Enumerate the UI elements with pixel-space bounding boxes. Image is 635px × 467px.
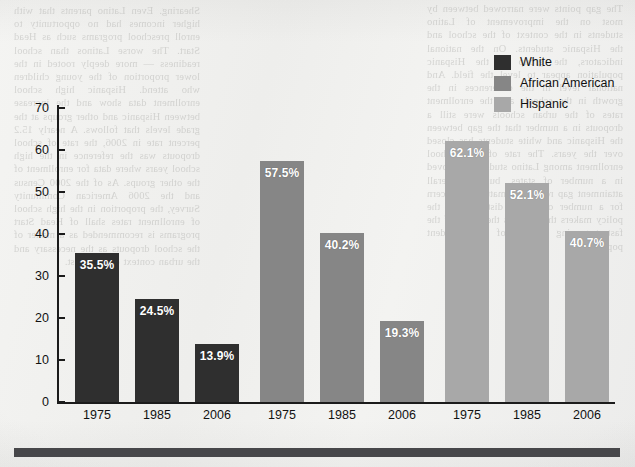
bar-hispanic-1975[interactable]: 62.1% bbox=[445, 141, 489, 402]
bar-value-label: 62.1% bbox=[445, 146, 489, 160]
bars-layer: 35.5%24.5%13.9%57.5%40.2%19.3%62.1%52.1%… bbox=[57, 108, 615, 402]
bar-value-label: 19.3% bbox=[380, 326, 424, 340]
bar-value-label: 40.2% bbox=[320, 238, 364, 252]
bar-african-american-1975[interactable]: 57.5% bbox=[260, 161, 304, 403]
legend-swatch-icon bbox=[494, 55, 511, 70]
x-axis-label-1975: 1975 bbox=[260, 409, 304, 422]
bar-white-1985[interactable]: 24.5% bbox=[135, 299, 179, 402]
bar-hispanic-1985[interactable]: 52.1% bbox=[505, 183, 549, 402]
y-axis-tick-label: 50 bbox=[23, 186, 49, 199]
bar-value-label: 57.5% bbox=[260, 166, 304, 180]
x-axis-line bbox=[57, 402, 615, 404]
x-axis-label-2006: 2006 bbox=[380, 409, 424, 422]
bar-value-label: 13.9% bbox=[195, 349, 239, 363]
x-axis-label-1985: 1985 bbox=[505, 409, 549, 422]
x-axis-label-1985: 1985 bbox=[320, 409, 364, 422]
y-axis-tick-label: 40 bbox=[23, 228, 49, 241]
legend-swatch-icon bbox=[494, 97, 511, 112]
bottom-rule-band bbox=[14, 448, 620, 457]
x-axis-label-2006: 2006 bbox=[565, 409, 609, 422]
bar-african-american-1985[interactable]: 40.2% bbox=[320, 233, 364, 402]
bar-white-1975[interactable]: 35.5% bbox=[75, 253, 119, 402]
x-axis-label-1985: 1985 bbox=[135, 409, 179, 422]
y-axis-tick-label: 60 bbox=[23, 144, 49, 157]
legend-item-african-american[interactable]: African American bbox=[494, 73, 614, 93]
y-axis-tick-label: 10 bbox=[23, 354, 49, 367]
bar-african-american-2006[interactable]: 19.3% bbox=[380, 321, 424, 402]
legend-label: Hispanic bbox=[520, 98, 568, 111]
bar-hispanic-2006[interactable]: 40.7% bbox=[565, 231, 609, 402]
bar-value-label: 24.5% bbox=[135, 304, 179, 318]
y-axis-tick-label: 0 bbox=[23, 396, 49, 409]
grouped-bar-chart: 010203040506070 35.5%24.5%13.9%57.5%40.2… bbox=[0, 0, 635, 467]
x-axis-label-2006: 2006 bbox=[195, 409, 239, 422]
legend-swatch-icon bbox=[494, 76, 511, 91]
bar-value-label: 52.1% bbox=[505, 188, 549, 202]
legend-label: African American bbox=[520, 77, 614, 90]
chart-legend: WhiteAfrican AmericanHispanic bbox=[494, 52, 614, 115]
x-axis-label-1975: 1975 bbox=[445, 409, 489, 422]
y-axis-tick-label: 30 bbox=[23, 270, 49, 283]
bar-white-2006[interactable]: 13.9% bbox=[195, 344, 239, 402]
y-axis-tick-label: 70 bbox=[23, 102, 49, 115]
legend-item-hispanic[interactable]: Hispanic bbox=[494, 94, 614, 114]
legend-label: White bbox=[520, 56, 552, 69]
bar-value-label: 35.5% bbox=[75, 258, 119, 272]
y-axis-tick-label: 20 bbox=[23, 312, 49, 325]
x-axis-label-1975: 1975 bbox=[75, 409, 119, 422]
bar-value-label: 40.7% bbox=[565, 236, 609, 250]
legend-item-white[interactable]: White bbox=[494, 52, 614, 72]
